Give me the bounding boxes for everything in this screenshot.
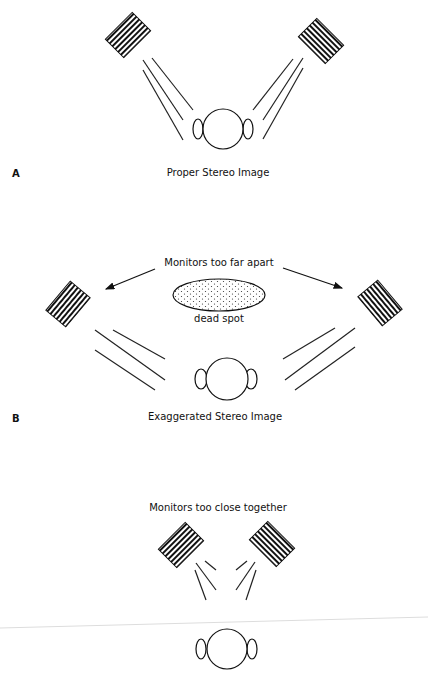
divider-line — [0, 617, 428, 628]
sound-waves-right — [253, 58, 303, 139]
speaker-right-icon — [298, 18, 343, 63]
listener-head-icon — [196, 629, 257, 669]
panel-c — [0, 521, 428, 669]
dead-spot-label: dead spot — [194, 313, 244, 324]
speaker-left-icon — [46, 281, 90, 327]
listener-head-icon — [193, 109, 253, 149]
speaker-right-icon — [249, 521, 294, 566]
speaker-left-icon — [105, 12, 150, 57]
sound-waves-left — [195, 561, 216, 600]
panel-a — [105, 12, 343, 149]
panel-letter-a: A — [12, 168, 20, 179]
arrow-left — [106, 269, 155, 289]
speaker-right-icon — [358, 280, 402, 326]
stereo-monitor-diagram — [0, 0, 428, 678]
panel-letter-b: B — [12, 413, 20, 424]
arrow-right — [283, 268, 342, 288]
sound-waves-right — [236, 561, 256, 600]
dead-spot-area — [173, 279, 265, 311]
speaker-left-icon — [158, 522, 203, 567]
sound-waves-right — [283, 328, 355, 390]
panel-b — [46, 268, 402, 400]
caption-a: Proper Stereo Image — [167, 167, 270, 178]
sound-waves-left — [143, 58, 193, 140]
sound-waves-left — [95, 330, 165, 390]
annotation-b: Monitors too far apart — [164, 257, 273, 268]
caption-b: Exaggerated Stereo Image — [148, 411, 282, 422]
listener-head-icon — [195, 358, 257, 400]
annotation-c: Monitors too close together — [149, 502, 287, 513]
